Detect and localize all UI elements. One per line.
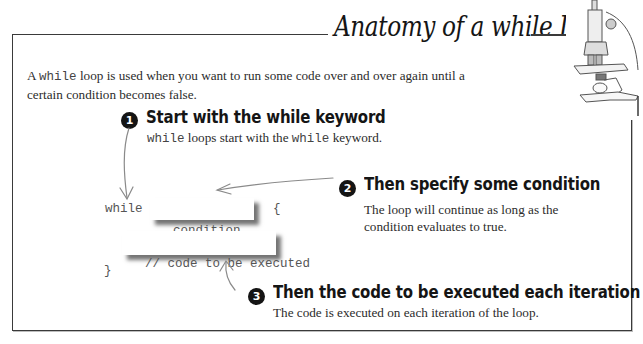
intro-keyword: while — [39, 70, 77, 84]
intro-text: certain condition becomes false. — [27, 87, 197, 102]
step-3-heading: Then the code to be executed each iterat… — [273, 282, 640, 302]
intro-text: loop is used when you want to run some c… — [77, 68, 465, 83]
desc-text: condition evaluates to true. — [364, 219, 507, 234]
step-2-description: The loop will continue as long as the co… — [364, 201, 558, 235]
code-open-brace: { — [273, 202, 281, 216]
step-1-badge: 1 — [121, 112, 138, 129]
microscope-icon — [566, 0, 643, 120]
keyword: while — [292, 132, 330, 146]
step-1-heading: Start with the while keyword — [146, 107, 386, 127]
intro-paragraph: A while loop is used when you want to ru… — [27, 67, 547, 103]
step-3-badge: 3 — [248, 288, 265, 305]
desc-text: The loop will continue as long as the — [364, 202, 558, 217]
desc-text: loops start with the — [185, 130, 292, 145]
step-1-description: while loops start with the while keyword… — [147, 129, 382, 148]
code-condition-box: condition — [150, 198, 254, 220]
keyword: while — [147, 132, 185, 146]
code-close-brace: } — [104, 264, 112, 278]
code-body: // code to be executed — [145, 257, 310, 271]
step-2-heading: Then specify some condition — [364, 174, 600, 194]
desc-text: keyword. — [329, 130, 382, 145]
step-3-description: The code is executed on each iteration o… — [273, 304, 539, 321]
code-while-keyword: while — [105, 202, 143, 216]
code-body-box: // code to be executed — [122, 231, 276, 255]
intro-text: A — [27, 68, 39, 83]
step-2-badge: 2 — [339, 180, 356, 197]
